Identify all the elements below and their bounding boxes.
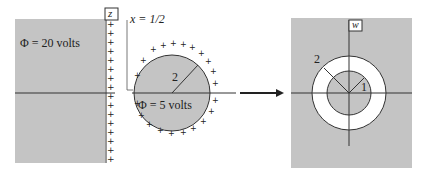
svg-text:+: + — [180, 128, 187, 137]
svg-text:+: + — [190, 124, 197, 133]
circle-potential-label: Φ = 5 volts — [138, 98, 192, 113]
svg-text:+: + — [107, 154, 115, 164]
svg-text:+: + — [205, 57, 212, 66]
svg-text:+: + — [198, 49, 205, 58]
outer-radius-label: 2 — [314, 52, 320, 67]
svg-text:+: + — [140, 56, 147, 65]
arrow-head-icon — [276, 89, 284, 97]
circle-radius-label: 2 — [172, 70, 178, 85]
svg-text:+: + — [200, 117, 207, 126]
svg-text:+: + — [212, 79, 219, 88]
svg-text:+: + — [146, 120, 153, 129]
region-potential-label: Φ = 20 volts — [20, 36, 80, 51]
boundary-charges: +++ +++ +++ +++ +++ + — [107, 19, 115, 164]
z-label: z — [108, 7, 112, 19]
svg-text:+: + — [170, 39, 177, 48]
svg-text:+: + — [189, 43, 196, 52]
svg-text:+: + — [208, 107, 215, 116]
svg-text:+: + — [157, 126, 164, 135]
line-position-label: x = 1/2 — [130, 12, 165, 27]
w-label: w — [352, 19, 359, 30]
svg-text:+: + — [180, 40, 187, 49]
svg-text:+: + — [160, 41, 167, 50]
svg-text:+: + — [212, 96, 219, 105]
svg-text:+: + — [210, 67, 217, 76]
svg-text:+: + — [150, 45, 157, 54]
inner-radius-label: 1 — [361, 80, 367, 95]
svg-text:+: + — [168, 129, 175, 138]
svg-text:+: + — [134, 71, 141, 80]
